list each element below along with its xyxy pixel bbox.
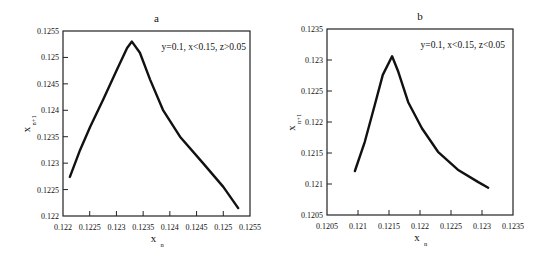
x-tick-label: 0.1215 — [378, 222, 400, 231]
x-tick-label: 0.1205 — [316, 222, 338, 231]
parameter-annotation: y=0.1, x<0.15, z>0.05 — [162, 42, 247, 52]
x-tick-label: 0.122 — [54, 223, 72, 232]
y-tick-label: 0.1205 — [301, 211, 323, 220]
y-tick-label: 0.1235 — [301, 25, 323, 34]
x-axis-label-subscript: n — [161, 241, 165, 248]
y-tick-label: 0.123 — [41, 159, 59, 168]
y-tick-label: 0.1215 — [301, 149, 323, 158]
x-tick-label: 0.1225 — [440, 222, 462, 231]
y-axis-label: x — [285, 125, 297, 131]
x-tick-label: 0.1245 — [186, 223, 208, 232]
x-tick-label: 0.123 — [473, 222, 491, 231]
x-tick-label: 0.1225 — [79, 223, 101, 232]
y-tick-label: 0.1225 — [301, 87, 323, 96]
parameter-annotation: y=0.1, x<0.15, z<0.05 — [421, 40, 506, 50]
x-tick-label: 0.123 — [107, 223, 125, 232]
y-axis-label-group: xn+1 — [285, 114, 302, 131]
y-tick-label: 0.125 — [41, 53, 59, 62]
x-tick-label: 0.1235 — [132, 223, 154, 232]
panel-a: a0.1220.12250.1230.12350.1240.12450.1250… — [20, 12, 261, 248]
y-tick-label: 0.1225 — [37, 186, 59, 195]
y-axis-label: x — [20, 126, 32, 132]
figure: a0.1220.12250.1230.12350.1240.12450.1250… — [0, 0, 543, 267]
y-tick-label: 0.1235 — [37, 133, 59, 142]
x-tick-label: 0.122 — [411, 222, 429, 231]
x-axis-label-subscript: n — [424, 240, 428, 247]
panel-b: b0.12050.1210.12150.1220.12250.1230.1235… — [285, 10, 524, 247]
x-tick-label: 0.125 — [214, 223, 232, 232]
y-axis-label-subscript: n+1 — [295, 114, 302, 124]
y-tick-label: 0.122 — [305, 118, 323, 127]
data-curve — [70, 42, 238, 209]
x-axis-label: x — [151, 232, 157, 244]
y-tick-label: 0.121 — [305, 180, 323, 189]
x-tick-label: 0.1235 — [502, 222, 524, 231]
y-tick-label: 0.124 — [41, 106, 59, 115]
x-tick-label: 0.1255 — [239, 223, 261, 232]
y-tick-label: 0.123 — [305, 56, 323, 65]
panel-title: a — [154, 12, 159, 24]
panel-title: b — [417, 10, 423, 22]
y-tick-label: 0.122 — [41, 212, 59, 221]
y-tick-label: 0.1255 — [37, 27, 59, 36]
y-axis-label-subscript: n+1 — [30, 115, 37, 125]
x-tick-label: 0.121 — [349, 222, 367, 231]
y-axis-label-group: xn+1 — [20, 115, 37, 132]
data-curve — [355, 56, 488, 187]
x-tick-label: 0.124 — [161, 223, 179, 232]
x-axis-label: x — [414, 231, 420, 243]
y-tick-label: 0.1245 — [37, 80, 59, 89]
